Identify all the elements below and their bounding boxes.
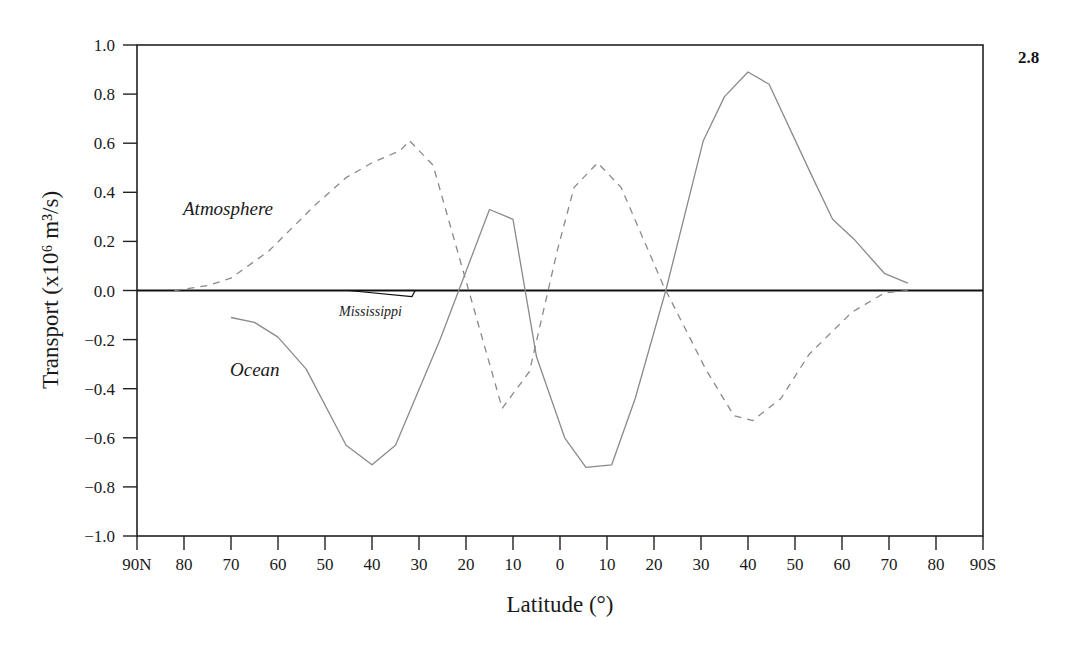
label-atmosphere: Atmosphere bbox=[181, 198, 273, 219]
x-tick-label: 30 bbox=[693, 555, 710, 574]
x-tick-label: 50 bbox=[317, 555, 334, 574]
label-ocean: Ocean bbox=[230, 359, 280, 380]
transport-chart: 1.00.80.60.40.20.0−0.2−0.4−0.6−0.8−1.0 9… bbox=[0, 0, 1076, 657]
y-tick-label: 0.0 bbox=[94, 282, 115, 301]
x-axis-title: Latitude (°) bbox=[507, 592, 614, 617]
x-tick-label: 10 bbox=[599, 555, 616, 574]
x-tick-label: 40 bbox=[740, 555, 757, 574]
x-tick-label: 60 bbox=[834, 555, 851, 574]
x-tick-label: 70 bbox=[881, 555, 898, 574]
y-tick-label: 0.6 bbox=[94, 134, 115, 153]
y-axis: 1.00.80.60.40.20.0−0.2−0.4−0.6−0.8−1.0 bbox=[84, 36, 137, 546]
y-tick-label: −0.8 bbox=[84, 478, 115, 497]
x-tick-label: 90S bbox=[970, 555, 996, 574]
y-tick-label: 0.2 bbox=[94, 232, 115, 251]
x-tick-label: 90N bbox=[122, 555, 151, 574]
x-tick-label: 20 bbox=[646, 555, 663, 574]
figure-number: 2.8 bbox=[1018, 48, 1039, 67]
x-tick-label: 70 bbox=[223, 555, 240, 574]
x-tick-label: 40 bbox=[364, 555, 381, 574]
x-tick-label: 80 bbox=[176, 555, 193, 574]
y-tick-label: −0.2 bbox=[84, 331, 115, 350]
y-tick-label: 0.4 bbox=[94, 183, 116, 202]
y-tick-label: −0.4 bbox=[84, 380, 115, 399]
series-mississippi-line bbox=[349, 291, 416, 297]
x-tick-label: 20 bbox=[458, 555, 475, 574]
x-tick-label: 30 bbox=[411, 555, 428, 574]
y-axis-title: Transport (x10⁶ m³/s) bbox=[38, 191, 63, 389]
series-ocean-line bbox=[231, 72, 908, 467]
x-tick-label: 80 bbox=[928, 555, 945, 574]
series-layer bbox=[175, 72, 908, 467]
label-mississippi: Mississippi bbox=[338, 304, 402, 319]
series-atmosphere-line bbox=[175, 141, 908, 421]
x-tick-label: 0 bbox=[556, 555, 565, 574]
x-tick-label: 10 bbox=[505, 555, 522, 574]
y-tick-label: −0.6 bbox=[84, 429, 115, 448]
y-tick-label: −1.0 bbox=[84, 527, 115, 546]
x-tick-label: 50 bbox=[787, 555, 804, 574]
y-tick-label: 0.8 bbox=[94, 85, 115, 104]
x-axis: 90N80706050403020100102030405060708090S bbox=[122, 536, 996, 574]
y-tick-label: 1.0 bbox=[94, 36, 115, 55]
x-tick-label: 60 bbox=[270, 555, 287, 574]
